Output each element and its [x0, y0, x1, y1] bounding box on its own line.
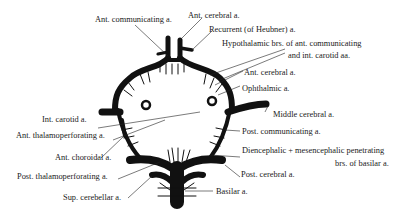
label-post-thalamoperforating: Post. thalamoperforating a.: [17, 172, 108, 181]
label-middle-cerebral: Middle cerebral a.: [273, 110, 334, 119]
label-ant-thalamoperforating: Ant. thalamoperforating a.: [16, 131, 105, 140]
label-recurrent-heubner: Recurrent (of Heubner) a.: [209, 25, 296, 34]
circle-of-willis-diagram: [0, 0, 407, 214]
label-basilar: Basilar a.: [216, 187, 248, 196]
label-ant-cerebral-top: Ant. cerebral a.: [188, 11, 240, 20]
label-ant-choroidal: Ant. choroidal a.: [55, 153, 111, 162]
label-hypothalamic-2: and int. carotid aa.: [288, 51, 350, 60]
label-ant-cerebral-side: Ant. cerebral a.: [244, 68, 296, 77]
label-ophthalmic: Ophthalmic a.: [242, 84, 289, 93]
label-diencephalic-1: Diencephalic + mesencephalic penetrating: [242, 146, 384, 155]
label-diencephalic-2: brs. of basilar a.: [335, 159, 389, 168]
label-sup-cerebellar: Sup. cerebellar a.: [63, 193, 121, 202]
label-post-communicating: Post. communicating a.: [242, 127, 321, 136]
label-ant-communicating: Ant. communicating a.: [95, 15, 172, 24]
label-int-carotid: Int. carotid a.: [42, 115, 87, 124]
label-post-cerebral: Post. cerebral a.: [241, 170, 295, 179]
label-hypothalamic-1: Hypothalamic brs. of ant. communicating: [222, 39, 362, 48]
